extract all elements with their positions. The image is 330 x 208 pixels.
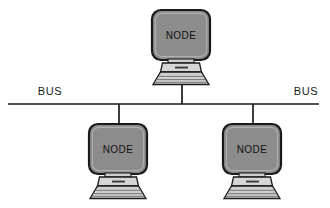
bus-label-left: BUS [38, 85, 62, 97]
computer-icon [223, 124, 281, 199]
node-bottom-right-label: NODE [237, 144, 268, 155]
bus-topology-diagram: NODE NODE NODE BUS BUS [0, 0, 330, 208]
bus-label-right: BUS [294, 85, 318, 97]
node-bottom-left[interactable]: NODE [89, 124, 147, 199]
node-bottom-left-label: NODE [103, 144, 134, 155]
node-top[interactable]: NODE [152, 10, 210, 85]
node-bottom-right[interactable]: NODE [223, 124, 281, 199]
drop-lines-group [119, 83, 253, 127]
computer-icon [89, 124, 147, 199]
computer-icon [152, 10, 210, 85]
topology-canvas: NODE NODE NODE BUS BUS [0, 0, 330, 208]
node-top-label: NODE [166, 30, 197, 41]
